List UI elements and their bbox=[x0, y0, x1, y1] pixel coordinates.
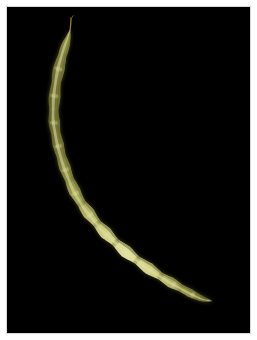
photo-backdrop bbox=[7, 7, 250, 333]
photo-frame: Bean pod bbox=[0, 0, 257, 340]
photo-black-background bbox=[7, 7, 250, 333]
bean-pod-illustration bbox=[7, 7, 250, 333]
